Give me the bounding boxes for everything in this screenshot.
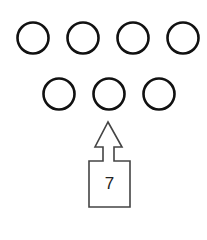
arrow-box-shape xyxy=(89,122,130,207)
circle xyxy=(44,79,75,110)
circle xyxy=(68,23,99,54)
circle xyxy=(94,79,125,110)
circle-row-1 xyxy=(18,23,199,54)
circle xyxy=(168,23,199,54)
circle xyxy=(18,23,49,54)
box-label: 7 xyxy=(89,174,130,194)
circle-row-2 xyxy=(44,79,175,110)
circle xyxy=(144,79,175,110)
circle xyxy=(118,23,149,54)
